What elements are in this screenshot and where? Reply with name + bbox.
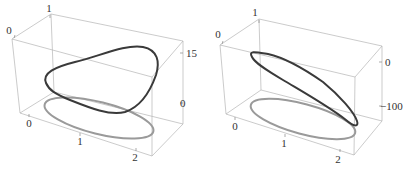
projection-curve [41,89,157,147]
y-tick-label: 1 [46,2,52,14]
plot-right: 0 1 0 1 2 0 −100 [208,0,416,174]
z-tick-label: −100 [380,100,403,112]
z-tick-label: 0 [385,56,391,68]
x-tick-label: 2 [132,151,138,163]
x-tick-label: 1 [77,135,83,147]
axis-ticks [222,20,382,152]
y-tick-label: 0 [6,24,12,36]
x-tick-label: 1 [281,137,287,149]
z-tick-label: 15 [186,47,198,59]
parametric-curve [251,52,357,125]
plot-left-canvas: 0 1 0 1 2 15 0 [0,0,208,174]
x-tick-label: 2 [335,153,341,165]
plot-left: 0 1 0 1 2 15 0 [0,0,208,174]
y-tick-label: 1 [252,6,258,18]
x-tick-label: 0 [26,117,32,129]
plot-right-canvas: 0 1 0 1 2 0 −100 [208,0,416,174]
z-tick-label: 0 [180,97,186,109]
y-tick-label: 0 [215,28,221,40]
x-tick-label: 0 [232,120,238,132]
axis-ticks [14,15,183,151]
